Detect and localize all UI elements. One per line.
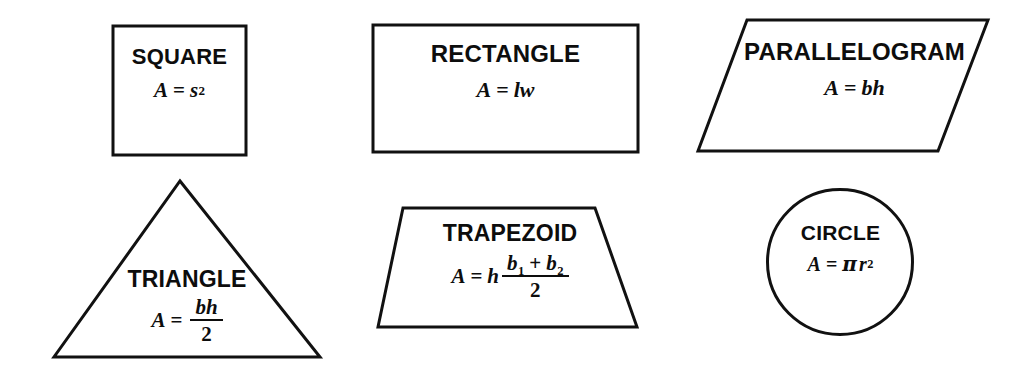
parallelogram-formula-equals: =	[839, 77, 862, 99]
figure-triangle: TRIANGLE A = bh 2	[60, 268, 314, 345]
triangle-formula: A = bh 2	[151, 296, 222, 345]
trapezoid-formula-denominator: 2	[502, 275, 569, 301]
figure-square: SQUARE A = s 2	[113, 46, 246, 101]
pi-symbol: π	[842, 254, 859, 274]
rectangle-formula-lhs: A	[476, 79, 491, 101]
circle-formula-radius: r	[859, 254, 867, 274]
rectangle-formula: A = lw	[476, 79, 534, 101]
circle-formula: A = π r 2	[808, 254, 874, 274]
figure-circle: CIRCLE A = π r 2	[768, 222, 913, 274]
square-formula: A = s 2	[154, 80, 205, 101]
rectangle-formula-equals: =	[491, 79, 514, 101]
square-label: SQUARE	[132, 46, 227, 68]
parallelogram-formula-rhs: bh	[861, 77, 884, 99]
trapezoid-label: TRAPEZOID	[443, 222, 578, 245]
trapezoid-formula-lhs: A	[451, 266, 465, 287]
triangle-formula-equals: =	[165, 310, 187, 331]
circle-label: CIRCLE	[801, 222, 880, 243]
area-formulas-figure: SQUARE A = s 2 RECTANGLE A = lw PARALLEL…	[0, 0, 1017, 370]
square-formula-base: s	[190, 80, 198, 101]
triangle-formula-lhs: A	[151, 310, 165, 331]
triangle-formula-numerator: bh	[190, 296, 222, 319]
parallelogram-label: PARALLELOGRAM	[744, 40, 965, 64]
trapezoid-numerator-plus: +	[524, 251, 546, 275]
parallelogram-formula-lhs: A	[824, 77, 839, 99]
square-formula-equals: =	[168, 80, 190, 101]
triangle-label: TRIANGLE	[127, 268, 246, 291]
trapezoid-formula: A = h b1+b2 2	[451, 252, 568, 301]
trapezoid-formula-numerator: b1+b2	[502, 252, 569, 275]
parallelogram-formula: A = bh	[824, 77, 884, 99]
trapezoid-formula-height-factor: h	[487, 266, 499, 287]
rectangle-formula-rhs: lw	[514, 79, 535, 101]
circle-formula-lhs: A	[808, 254, 821, 274]
figure-rectangle: RECTANGLE A = lw	[373, 42, 638, 101]
rectangle-label: RECTANGLE	[431, 42, 580, 66]
trapezoid-base2: b	[546, 251, 557, 275]
trapezoid-base1: b	[507, 251, 518, 275]
triangle-formula-fraction: bh 2	[190, 296, 222, 345]
triangle-formula-denominator: 2	[190, 319, 222, 345]
trapezoid-formula-fraction: b1+b2 2	[502, 252, 569, 301]
figure-parallelogram: PARALLELOGRAM A = bh	[722, 40, 987, 99]
circle-formula-equals: =	[821, 254, 842, 274]
square-formula-lhs: A	[154, 80, 168, 101]
trapezoid-formula-equals: =	[465, 266, 487, 287]
figure-trapezoid: TRAPEZOID A = h b1+b2 2	[390, 222, 630, 301]
